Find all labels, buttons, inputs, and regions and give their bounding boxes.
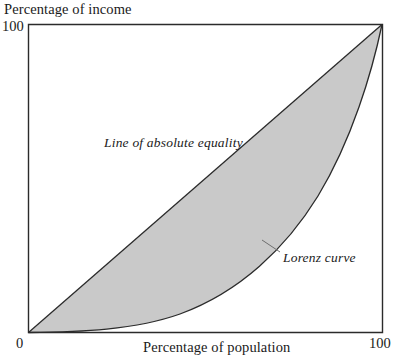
y-axis-title: Percentage of income [4, 2, 132, 17]
lorenz-curve-plot [0, 0, 406, 359]
axis-tick-origin-0: 0 [16, 336, 23, 351]
annotation-lorenz-curve: Lorenz curve [283, 251, 356, 265]
x-axis-title: Percentage of population [143, 340, 290, 355]
lorenz-curve-figure: Percentage of income Percentage of popul… [0, 0, 406, 359]
annotation-line-of-absolute-equality: Line of absolute equality [104, 136, 243, 150]
y-axis-tick-100: 100 [2, 19, 24, 34]
x-axis-tick-100: 100 [369, 336, 391, 351]
